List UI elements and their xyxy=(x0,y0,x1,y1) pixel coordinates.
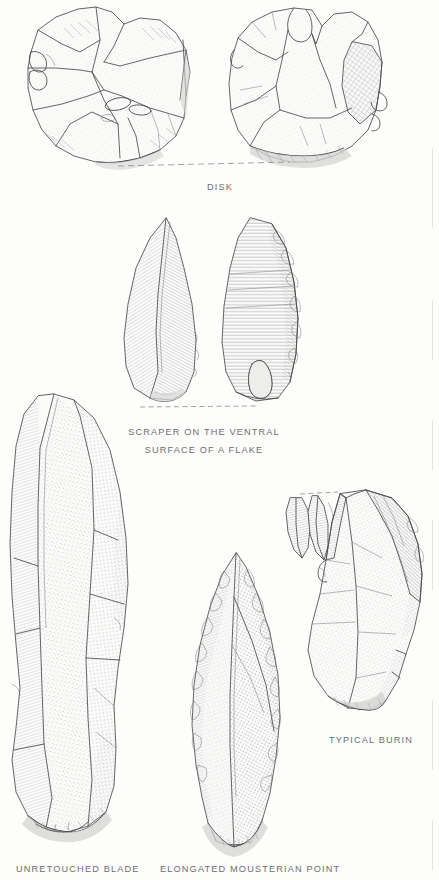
scraper-view-right xyxy=(222,218,301,401)
disk-view-left xyxy=(28,7,190,170)
caption-unretouched-blade: UNRETOUCHED BLADE xyxy=(16,864,140,874)
point-body xyxy=(190,553,280,857)
caption-mousterian-point: ELONGATED MOUSTERIAN POINT xyxy=(160,864,340,874)
figure-unretouched-blade xyxy=(2,388,152,858)
figure-mousterian-point xyxy=(178,545,298,860)
scraper-baseline-dashed xyxy=(140,406,256,407)
burin-spall xyxy=(286,496,334,560)
caption-typical-burin: TYPICAL BURIN xyxy=(329,735,413,745)
burin-spall-connector xyxy=(300,492,338,494)
illustration-plate: DISK xyxy=(0,0,439,880)
figure-typical-burin xyxy=(282,482,437,722)
caption-disk: DISK xyxy=(207,182,233,192)
page-margin-line-3 xyxy=(432,420,433,470)
figure-scraper xyxy=(110,212,330,417)
figure-disk xyxy=(0,0,439,200)
blade-body xyxy=(10,394,128,842)
scraper-view-left xyxy=(124,218,199,402)
disk-view-right xyxy=(229,8,387,168)
page-margin-line-2 xyxy=(432,300,433,360)
caption-scraper-line2: SURFACE OF A FLAKE xyxy=(145,445,264,455)
page-margin-line-6 xyxy=(432,820,433,870)
